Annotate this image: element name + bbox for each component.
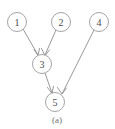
node-4[interactable]: 4 [90,13,109,32]
node-5[interactable]: 5 [46,93,65,112]
edge-1-to-3 [23,29,38,55]
edge-2-to-3 [45,30,56,55]
edge-3-to-5 [45,73,52,93]
node-2[interactable]: 2 [52,13,71,32]
figure-container: 1 2 4 3 5 (a) [0,0,115,129]
node-5-label: 5 [53,97,58,108]
node-2-label: 2 [59,17,64,28]
edge-4-to-5 [62,30,94,94]
node-1-label: 1 [15,17,20,28]
node-4-label: 4 [97,17,102,28]
graph-canvas: 1 2 4 3 5 (a) [0,0,115,129]
node-1[interactable]: 1 [8,13,27,32]
node-3-label: 3 [40,59,45,70]
node-3[interactable]: 3 [33,55,52,74]
figure-caption: (a) [52,115,62,125]
